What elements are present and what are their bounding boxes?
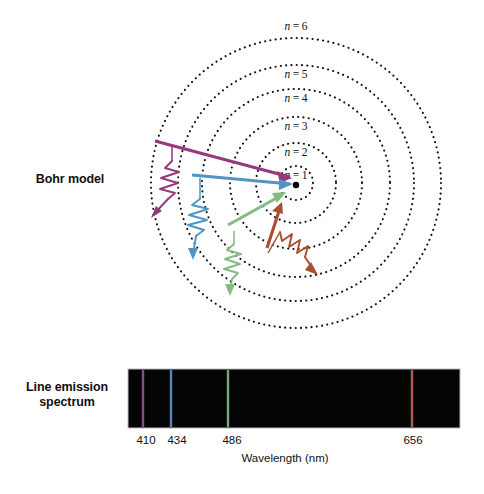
orbit-label-n5-value: 5	[302, 68, 308, 80]
photon-486nm-arrowhead	[225, 284, 235, 296]
orbit-label-n1-value: 1	[302, 169, 308, 181]
orbit-label-n2-value: 2	[302, 146, 308, 158]
spectrum-tick-486: 486	[222, 434, 241, 446]
orbit-label-n4-equals: =	[293, 92, 300, 104]
orbit-label-n4-value: 4	[302, 92, 308, 104]
photon-434nm-arrowhead	[188, 248, 198, 260]
spectrum-tick-410: 410	[136, 434, 155, 446]
orbit-label-n6-value: 6	[302, 20, 308, 32]
wavelength-axis-title: Wavelength (nm)	[241, 452, 328, 464]
orbit-label-n5-symbol: n	[285, 68, 291, 80]
orbit-label-n2-equals: =	[293, 146, 300, 158]
orbit-label-n3: n=3	[285, 120, 308, 132]
orbit-label-n3-symbol: n	[285, 120, 291, 132]
orbit-label-n2: n=2	[285, 146, 308, 158]
orbit-label-n4: n=4	[285, 92, 308, 104]
bohr-model-spectrum-figure: Bohr model n=6 n=5 n=4 n=3	[0, 0, 484, 494]
orbit-label-n4-symbol: n	[285, 92, 291, 104]
nucleus-dot	[293, 182, 299, 188]
orbit-label-n3-equals: =	[293, 120, 300, 132]
transition-486nm-head	[272, 192, 286, 203]
line-emission-spectrum-diagram: 410 434 486 656 Wavelength (nm)	[0, 355, 484, 494]
orbit-label-group: n=6 n=5 n=4 n=3 n=2 n=1	[285, 20, 308, 181]
orbit-label-n5: n=5	[285, 68, 308, 80]
orbit-label-n6-symbol: n	[285, 20, 291, 32]
transition-arrow-410nm	[151, 141, 292, 218]
orbit-label-n6: n=6	[285, 20, 308, 32]
transition-arrow-656nm	[267, 202, 318, 275]
photon-434nm-wave	[188, 199, 208, 236]
spectrum-tick-434: 434	[167, 434, 187, 446]
bohr-model-diagram: n=6 n=5 n=4 n=3 n=2 n=1	[0, 0, 484, 350]
transition-434nm-shaft	[192, 175, 290, 184]
spectrum-tick-labels: 410 434 486 656	[136, 434, 422, 446]
orbit-label-n2-symbol: n	[285, 146, 291, 158]
photon-656nm-wave	[280, 232, 308, 257]
orbit-label-n6-equals: =	[293, 20, 300, 32]
orbit-label-n5-equals: =	[293, 68, 300, 80]
photon-410nm-wave	[160, 161, 179, 199]
photon-486nm-wave	[224, 244, 241, 279]
transition-656nm-head	[272, 202, 283, 214]
spectrum-band	[128, 369, 460, 428]
spectrum-tick-656: 656	[403, 434, 422, 446]
orbit-label-n3-value: 3	[302, 120, 308, 132]
photon-656nm-arrowhead	[305, 262, 318, 275]
orbit-label-n1-equals: =	[293, 169, 300, 181]
